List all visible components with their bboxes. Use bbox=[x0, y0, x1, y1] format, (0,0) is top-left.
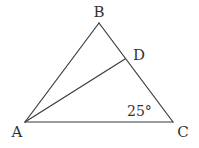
segment-ad bbox=[25, 59, 125, 122]
angle-c-annotation: 25° bbox=[127, 103, 152, 119]
triangle-diagram: A B C D 25° bbox=[0, 0, 199, 148]
label-d: D bbox=[133, 46, 145, 64]
label-b: B bbox=[93, 3, 104, 21]
label-a: A bbox=[11, 123, 23, 141]
label-c: C bbox=[177, 123, 188, 141]
segment-ab bbox=[25, 23, 99, 122]
